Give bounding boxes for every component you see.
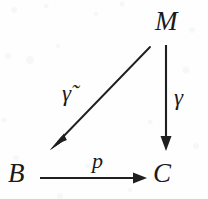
edge-label-gamma-tilde: γ̃ (62, 82, 71, 105)
arrow-gamma (161, 45, 172, 151)
commutative-diagram: M B C γ̃ γ p (0, 0, 208, 199)
arrow-p (40, 173, 147, 184)
edge-label-p: p (92, 150, 103, 172)
edge-label-gamma: γ (174, 86, 183, 109)
